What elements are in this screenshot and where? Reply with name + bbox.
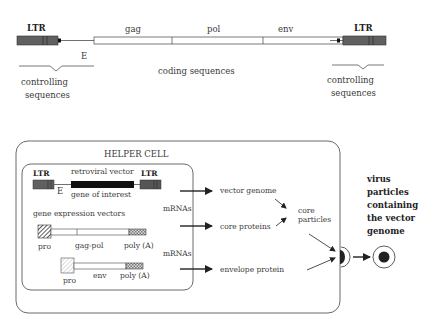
controlling-left-1: controlling — [21, 77, 69, 87]
mrnas-label-2: mRNAs — [163, 249, 192, 258]
pol-label: pol — [207, 24, 221, 34]
gene-of-interest-label: gene of interest — [71, 190, 131, 199]
env-label-vector: env — [93, 271, 107, 280]
coding-sequences-label: coding sequences — [158, 66, 235, 76]
controlling-right-2: sequences — [331, 88, 376, 98]
output-line-3: containing — [367, 200, 418, 210]
arrow-envelope-to-budding — [307, 258, 335, 270]
gag-pol-label: gag-pol — [75, 241, 104, 250]
output-line-5: genome — [367, 226, 405, 236]
output-line-2: particles — [367, 187, 409, 197]
helper-cell: HELPER CELL LTR retroviral vector LTR E … — [16, 141, 340, 313]
env-vector: pro env poly (A) — [61, 258, 150, 285]
gene-expression-title: gene expression vectors — [33, 209, 125, 218]
helper-cell-title: HELPER CELL — [104, 149, 169, 159]
brace-right — [332, 65, 384, 69]
rv-e-label: E — [57, 186, 63, 196]
pro-light-box — [61, 258, 74, 273]
ltr-left-label: LTR — [27, 23, 47, 33]
gene-of-interest-bar — [71, 181, 134, 188]
gag-label: gag — [125, 24, 142, 34]
helper-cell-outline — [16, 141, 340, 313]
pro-label-1: pro — [38, 242, 51, 251]
coding-region — [94, 37, 343, 44]
retroviral-vector-diagram: LTR E gag pol env LTR controlling sequen… — [0, 0, 437, 328]
ltr-right-label: LTR — [354, 23, 374, 33]
output-label: virus particles containing the vector ge… — [366, 174, 418, 236]
rv-ltr-right-label: LTR — [141, 169, 158, 178]
core-particles-label-1: core — [298, 206, 315, 215]
env-label: env — [278, 24, 294, 34]
brace-left — [19, 66, 94, 71]
mrnas-label-1: mRNAs — [163, 204, 192, 213]
ltr-left-box — [17, 36, 61, 45]
polya-label-1: poly (A) — [124, 241, 154, 250]
virus-particle — [373, 246, 395, 268]
pro-hatched-box — [38, 225, 51, 238]
arrow-to-core-2 — [276, 218, 286, 226]
budding-particle — [340, 247, 350, 267]
rv-ltr-left-label: LTR — [33, 169, 50, 178]
polya-box-2 — [126, 263, 143, 269]
provirus-construct: LTR E gag pol env LTR controlling sequen… — [17, 23, 386, 100]
rv-title: retroviral vector — [71, 167, 134, 176]
gag-pol-vector: pro gag-pol poly (A) — [38, 225, 154, 251]
vector-genome-label: vector genome — [219, 186, 277, 195]
polya-box-1 — [129, 229, 146, 235]
ltr-right-box — [343, 36, 386, 45]
core-proteins-label: core proteins — [220, 222, 271, 231]
polya-label-2: poly (A) — [120, 271, 150, 280]
output-line-4: the vector — [367, 213, 416, 223]
arrow-to-core-1 — [275, 199, 286, 208]
controlling-left-2: sequences — [25, 90, 70, 100]
controlling-right-1: controlling — [327, 75, 375, 85]
retroviral-vector: LTR retroviral vector LTR E gene of inte… — [33, 167, 161, 199]
core-particles-label-2: particles — [298, 215, 331, 224]
e-label: E — [81, 51, 87, 61]
output-line-1: virus — [366, 174, 391, 184]
pro-label-2: pro — [63, 276, 76, 285]
arrow-core-to-budding — [309, 234, 335, 251]
envelope-protein-label: envelope protein — [220, 265, 284, 274]
